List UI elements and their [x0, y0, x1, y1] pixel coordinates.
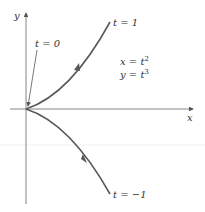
- label-t0: t = 0: [35, 38, 61, 49]
- direction-arrow-upper: [74, 63, 80, 71]
- equation-y: y = t3: [119, 68, 149, 80]
- curve-upper-branch: [26, 22, 110, 109]
- equation-x: x = t2: [120, 55, 149, 67]
- label-t1: t = 1: [113, 17, 138, 28]
- curve-lower-branch: [26, 109, 110, 194]
- parametric-curve-figure: y x t = 0 t = 1 t = −1 x = t2 y = t3: [0, 0, 205, 212]
- label-tm1: t = −1: [113, 189, 147, 200]
- y-axis-label: y: [13, 10, 20, 21]
- t0-pointer: [28, 50, 37, 106]
- x-axis-label: x: [187, 112, 193, 123]
